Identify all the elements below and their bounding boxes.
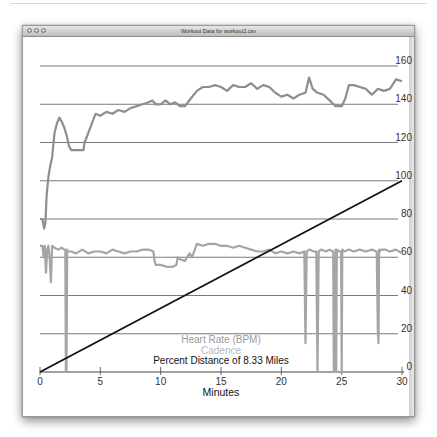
y-tick-label: 100 — [395, 170, 412, 181]
chart-plot: 020406080100120140160 051015202530 Heart… — [0, 0, 437, 437]
x-tick-label: 0 — [37, 376, 43, 387]
legend-entry: Heart Rate (BPM) — [181, 334, 260, 345]
x-tick-label: 10 — [155, 376, 167, 387]
legend-entry: Percent Distance of 8.33 Miles — [153, 355, 289, 366]
y-tick-label: 60 — [401, 246, 413, 257]
x-axis: 051015202530 — [37, 367, 408, 387]
y-tick-label: 20 — [401, 323, 413, 334]
x-tick-label: 20 — [276, 376, 288, 387]
series-line — [40, 78, 402, 229]
series-lines — [40, 78, 402, 373]
legend: Heart Rate (BPM)CadencePercent Distance … — [153, 334, 289, 366]
y-tick-label: 40 — [401, 285, 413, 296]
legend-entry: Cadence — [201, 345, 241, 356]
y-tick-label: 160 — [395, 55, 412, 66]
x-axis-label: Minutes — [203, 386, 240, 398]
grid-lines — [40, 66, 398, 334]
y-tick-label: 80 — [401, 208, 413, 219]
x-tick-label: 5 — [98, 376, 104, 387]
x-tick-label: 25 — [336, 376, 348, 387]
y-tick-label: 0 — [406, 361, 412, 372]
y-tick-label: 120 — [395, 132, 412, 143]
y-axis-tick-labels: 020406080100120140160 — [395, 55, 412, 372]
y-tick-label: 140 — [395, 93, 412, 104]
x-tick-label: 30 — [396, 376, 408, 387]
desktop: Workout Data for workout2.csv 0204060801… — [0, 0, 437, 437]
